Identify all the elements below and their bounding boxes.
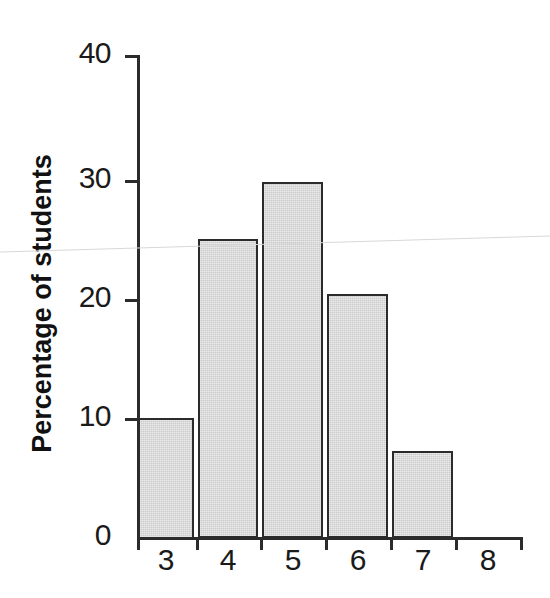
y-tick-20 <box>125 299 137 302</box>
bar-5 <box>262 182 323 539</box>
bar-4 <box>198 239 258 539</box>
bar-6 <box>327 294 388 538</box>
x-tick-label-5: 5 <box>263 545 323 575</box>
histogram-chart: Percentage of students 40 30 20 10 0 3 4… <box>0 0 550 598</box>
x-tick-label-3: 3 <box>136 545 196 575</box>
x-tick-label-4: 4 <box>198 545 258 575</box>
y-tick-10 <box>125 418 137 421</box>
y-tick-30 <box>125 180 137 183</box>
y-axis-title: Percentage of students <box>27 144 58 464</box>
x-tick-label-6: 6 <box>328 545 388 575</box>
x-tick-boundary-6 <box>520 537 523 550</box>
x-tick-label-8: 8 <box>458 545 518 575</box>
y-tick-label-10: 10 <box>79 401 111 431</box>
y-tick-label-20: 20 <box>79 282 111 312</box>
y-tick-label-40: 40 <box>79 38 111 68</box>
bar-3 <box>138 418 194 539</box>
y-tick-label-0: 0 <box>95 520 111 550</box>
x-tick-label-7: 7 <box>393 545 453 575</box>
bar-7 <box>392 451 453 538</box>
y-tick-label-30: 30 <box>79 163 111 193</box>
y-tick-40 <box>125 55 137 58</box>
